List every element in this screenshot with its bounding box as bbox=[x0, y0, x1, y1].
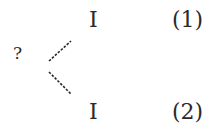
branch-number-1: (1) bbox=[172, 9, 203, 31]
branch-number-2: (2) bbox=[172, 101, 203, 123]
edge-lower bbox=[49, 72, 71, 94]
edge-upper bbox=[49, 41, 71, 61]
branch-node-2: I bbox=[89, 101, 98, 123]
branch-node-1: I bbox=[89, 9, 98, 31]
